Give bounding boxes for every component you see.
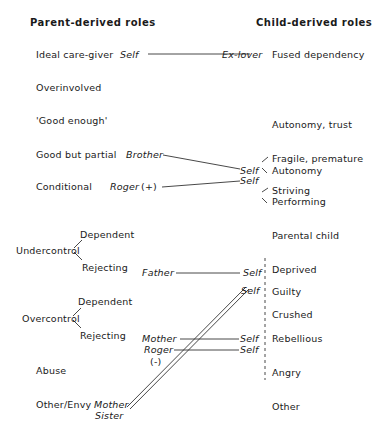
- person-self-father: Self: [243, 268, 262, 278]
- line-brother-self: [163, 155, 240, 169]
- parent-role-overcontrol: Overcontrol: [22, 314, 80, 324]
- header-child-derived: Child-derived roles: [256, 18, 372, 28]
- child-role-rebellious: Rebellious: [272, 334, 323, 344]
- person-roger-minus: Roger: [144, 345, 173, 355]
- child-role-other: Other: [272, 402, 300, 412]
- undercontrol-rejecting: Rejecting: [82, 263, 128, 273]
- child-role-autonomy-trust: Autonomy, trust: [272, 120, 352, 130]
- parent-role-abuse: Abuse: [36, 366, 66, 376]
- person-mother-bottom: Mother: [94, 400, 129, 410]
- undercontrol-dependent: Dependent: [80, 230, 134, 240]
- child-role-guilty: Guilty: [272, 287, 301, 297]
- parent-role-good-but-partial: Good but partial: [36, 150, 117, 160]
- child-role-crushed: Crushed: [272, 310, 313, 320]
- person-self-roger: Self: [240, 345, 259, 355]
- parent-role-good-enough: 'Good enough': [36, 116, 108, 126]
- person-roger-plus: Roger: [110, 182, 139, 192]
- person-roger-minus-sign: (-): [150, 357, 161, 367]
- parent-role-ideal-care-giver: Ideal care-giver: [36, 50, 113, 60]
- child-role-parental-child: Parental child: [272, 231, 339, 241]
- line-roger-plus-self: [162, 181, 240, 187]
- child-role-autonomy: Autonomy: [272, 166, 322, 176]
- parent-role-other-envy: Other/Envy: [36, 400, 91, 410]
- parent-role-undercontrol: Undercontrol: [16, 246, 80, 256]
- parent-role-conditional: Conditional: [36, 182, 92, 192]
- person-self-top: Self: [120, 50, 139, 60]
- child-role-fused-dependency: Fused dependency: [272, 50, 365, 60]
- person-self-mother: Self: [240, 334, 259, 344]
- parent-role-overinvolved: Overinvolved: [36, 83, 101, 93]
- person-ex-lover: Ex-lover: [222, 50, 262, 60]
- person-self-conditional: Self: [240, 176, 259, 186]
- child-role-deprived: Deprived: [272, 265, 317, 275]
- header-parent-derived: Parent-derived roles: [30, 18, 156, 28]
- child-role-striving: Striving: [272, 186, 310, 196]
- child-role-performing: Performing: [272, 197, 326, 207]
- person-sister: Sister: [95, 411, 123, 421]
- person-mother-mid: Mother: [142, 334, 177, 344]
- child-role-angry: Angry: [272, 368, 301, 378]
- person-self-guilty: Self: [241, 286, 260, 296]
- person-father: Father: [142, 268, 174, 278]
- overcontrol-rejecting: Rejecting: [80, 331, 126, 341]
- person-roger-plus-sign: (+): [141, 182, 157, 192]
- person-brother: Brother: [126, 150, 163, 160]
- overcontrol-dependent: Dependent: [78, 297, 132, 307]
- child-role-fragile-premature: Fragile, premature: [272, 154, 363, 164]
